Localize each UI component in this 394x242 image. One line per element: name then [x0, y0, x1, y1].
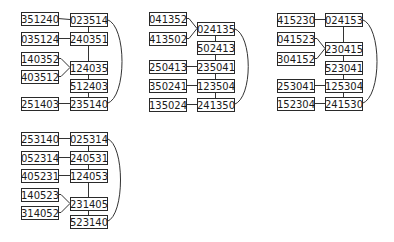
svg-text:415230: 415230: [277, 15, 315, 26]
svg-text:024153: 024153: [325, 15, 363, 26]
svg-text:025314: 025314: [70, 134, 108, 145]
edge-041352-024135: [186, 19, 197, 29]
node-253140: 253140: [21, 133, 59, 146]
node-023514: 023514: [70, 14, 108, 27]
svg-text:140523: 140523: [21, 190, 59, 201]
svg-text:124035: 124035: [70, 63, 108, 74]
edge-140352-124035: [58, 59, 70, 68]
node-041523: 041523: [277, 33, 315, 46]
svg-text:123504: 123504: [197, 81, 235, 92]
node-230415: 230415: [325, 43, 363, 56]
svg-text:240531: 240531: [70, 153, 108, 164]
node-523140: 523140: [70, 216, 108, 229]
node-124035: 124035: [70, 62, 108, 75]
edge-023514-235140: [107, 20, 122, 104]
svg-text:235140: 235140: [70, 99, 108, 110]
node-135024: 135024: [149, 99, 187, 112]
diagram-3: 4152300241530415232304153041525230412530…: [277, 14, 377, 111]
svg-text:314052: 314052: [21, 208, 59, 219]
node-025314: 025314: [70, 133, 108, 146]
node-403512: 403512: [21, 71, 59, 84]
node-240351: 240351: [70, 33, 108, 46]
node-052314: 052314: [21, 152, 59, 165]
node-125304: 125304: [325, 80, 363, 93]
svg-text:351240: 351240: [21, 14, 59, 25]
svg-text:240351: 240351: [70, 34, 108, 45]
svg-text:041523: 041523: [277, 34, 315, 45]
edge-024153-241530: [362, 20, 377, 104]
svg-text:140352: 140352: [21, 54, 59, 65]
node-350241: 350241: [149, 80, 187, 93]
edge-304152-230415: [314, 49, 325, 59]
node-512403: 512403: [70, 80, 108, 93]
svg-text:041352: 041352: [149, 14, 187, 25]
node-253041: 253041: [277, 80, 315, 93]
node-140523: 140523: [21, 189, 59, 202]
edge-041523-230415: [314, 39, 325, 49]
edge-140523-231405: [58, 195, 70, 204]
node-024153: 024153: [325, 14, 363, 27]
svg-text:253041: 253041: [277, 81, 315, 92]
node-241530: 241530: [325, 98, 363, 111]
edge-413502-024135: [186, 29, 197, 39]
node-152304: 152304: [277, 98, 315, 111]
node-024135: 024135: [197, 23, 235, 36]
node-235041: 235041: [197, 61, 235, 74]
node-405231: 405231: [21, 170, 59, 183]
svg-text:350241: 350241: [149, 81, 187, 92]
svg-text:052314: 052314: [21, 153, 59, 164]
svg-text:135024: 135024: [149, 100, 187, 111]
node-240531: 240531: [70, 152, 108, 165]
svg-text:124053: 124053: [70, 171, 108, 182]
node-235140: 235140: [70, 98, 108, 111]
node-304152: 304152: [277, 53, 315, 66]
node-314052: 314052: [21, 207, 59, 220]
node-140352: 140352: [21, 53, 59, 66]
svg-text:253140: 253140: [21, 134, 59, 145]
edge-025314-523140: [107, 139, 121, 222]
svg-text:413502: 413502: [149, 34, 187, 45]
edge-403512-124035: [58, 68, 70, 77]
node-523041: 523041: [325, 62, 363, 75]
node-250413: 250413: [149, 61, 187, 74]
svg-text:523041: 523041: [325, 63, 363, 74]
svg-text:241530: 241530: [325, 99, 363, 110]
svg-text:023514: 023514: [70, 15, 108, 26]
node-251403: 251403: [21, 98, 59, 111]
svg-text:251403: 251403: [21, 99, 59, 110]
svg-text:024135: 024135: [197, 24, 235, 35]
svg-text:512403: 512403: [70, 81, 108, 92]
node-351240: 351240: [21, 13, 59, 26]
diagram-4: 2531400253140523142405314052311240531405…: [21, 133, 121, 229]
node-124053: 124053: [70, 170, 108, 183]
svg-text:231405: 231405: [70, 199, 108, 210]
node-123504: 123504: [197, 80, 235, 93]
node-231405: 231405: [70, 198, 108, 211]
svg-text:304152: 304152: [277, 54, 315, 65]
diagram-1: 3512400235140351242403511403521240354035…: [21, 13, 122, 111]
svg-text:405231: 405231: [21, 171, 59, 182]
svg-text:241350: 241350: [197, 100, 235, 111]
edge-314052-231405: [58, 204, 70, 213]
svg-text:403512: 403512: [21, 72, 59, 83]
svg-text:230415: 230415: [325, 44, 363, 55]
node-241350: 241350: [197, 99, 235, 112]
node-041352: 041352: [149, 13, 187, 26]
edge-024135-241350: [234, 29, 248, 105]
svg-text:125304: 125304: [325, 81, 363, 92]
svg-text:152304: 152304: [277, 99, 315, 110]
svg-text:502413: 502413: [197, 43, 235, 54]
svg-text:035124: 035124: [21, 34, 59, 45]
node-035124: 035124: [21, 33, 59, 46]
svg-text:235041: 235041: [197, 62, 235, 73]
node-413502: 413502: [149, 33, 187, 46]
diagram-canvas: 3512400235140351242403511403521240354035…: [0, 0, 394, 242]
edge-351240-023514: [58, 19, 70, 20]
node-502413: 502413: [197, 42, 235, 55]
node-415230: 415230: [277, 14, 315, 27]
svg-text:250413: 250413: [149, 62, 187, 73]
svg-text:523140: 523140: [70, 217, 108, 228]
diagram-2: 0413520241354135025024132504132350413502…: [149, 13, 248, 112]
